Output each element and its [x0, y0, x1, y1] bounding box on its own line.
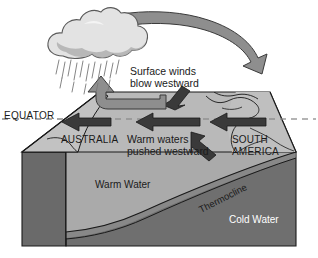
equator-label: EQUATOR	[4, 110, 55, 121]
cold-water-label: Cold Water	[229, 214, 279, 225]
diagram-canvas: EQUATOR Surface winds blow westward AUST…	[0, 0, 318, 258]
warm-waters-label-line2: pushed westward	[127, 146, 209, 158]
surface-winds-label-line2: blow westward	[130, 78, 199, 90]
south-america-label-line1: SOUTH	[232, 134, 268, 145]
australia-label: AUSTRALIA	[61, 134, 118, 145]
block-left-side-face	[22, 152, 66, 246]
warm-waters-label-line1: Warm waters	[127, 134, 188, 146]
surface-winds-label-line1: Surface winds	[130, 66, 196, 78]
warm-water-label: Warm Water	[95, 179, 150, 190]
south-america-label-line2: AMERICA	[232, 146, 279, 157]
rain-cloud-icon	[48, 8, 148, 59]
